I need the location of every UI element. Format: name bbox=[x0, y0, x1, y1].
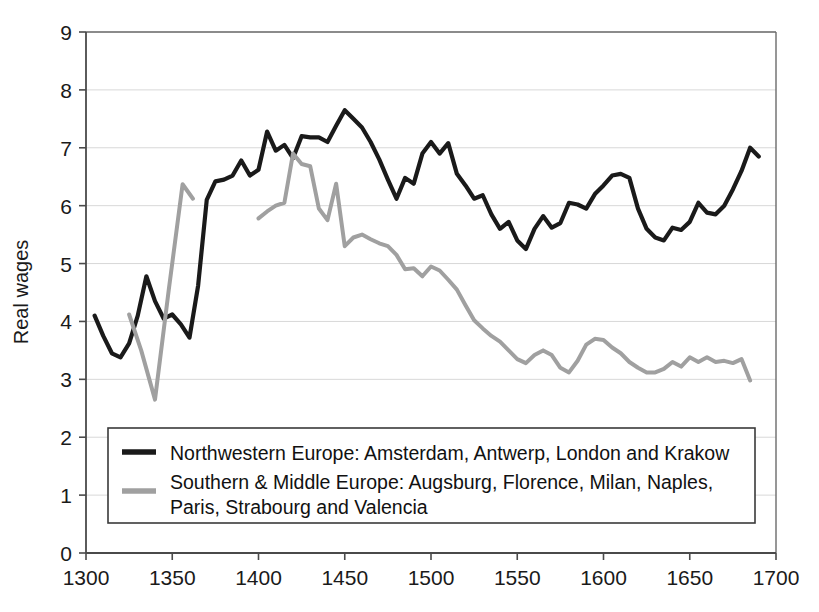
chart-figure: 0123456789 13001350140014501500155016001… bbox=[0, 0, 819, 612]
legend-label-northwestern-europe: Northwestern Europe: Amsterdam, Antwerp,… bbox=[170, 442, 730, 464]
x-tick-label: 1450 bbox=[321, 566, 368, 589]
x-tick-label: 1500 bbox=[408, 566, 455, 589]
y-tick-label: 4 bbox=[60, 310, 72, 333]
y-tick-label: 8 bbox=[60, 79, 72, 102]
x-tick-label: 1400 bbox=[235, 566, 282, 589]
y-axis-title: Real wages bbox=[10, 240, 32, 345]
y-tick-label: 2 bbox=[60, 426, 72, 449]
x-tick-label: 1350 bbox=[149, 566, 196, 589]
x-tick-label: 1700 bbox=[753, 566, 800, 589]
y-tick-label: 3 bbox=[60, 368, 72, 391]
y-tick-label: 6 bbox=[60, 195, 72, 218]
y-tick-label: 1 bbox=[60, 484, 72, 507]
legend-label-southern-middle-europe-line2: Paris, Strabourg and Valencia bbox=[170, 496, 428, 518]
x-tick-label: 1550 bbox=[494, 566, 541, 589]
x-tick-label: 1600 bbox=[580, 566, 627, 589]
legend: Northwestern Europe: Amsterdam, Antwerp,… bbox=[108, 428, 755, 523]
x-tick-label: 1650 bbox=[666, 566, 713, 589]
legend-label-southern-middle-europe-line1: Southern & Middle Europe: Augsburg, Flor… bbox=[170, 471, 713, 493]
y-tick-label: 5 bbox=[60, 253, 72, 276]
y-tick-label: 7 bbox=[60, 137, 72, 160]
y-tick-label: 9 bbox=[60, 21, 72, 44]
y-tick-label: 0 bbox=[60, 542, 72, 565]
real-wages-line-chart: 0123456789 13001350140014501500155016001… bbox=[0, 0, 819, 612]
x-axis-tick-labels: 130013501400145015001550160016501700 bbox=[63, 566, 800, 589]
x-tick-label: 1300 bbox=[63, 566, 110, 589]
